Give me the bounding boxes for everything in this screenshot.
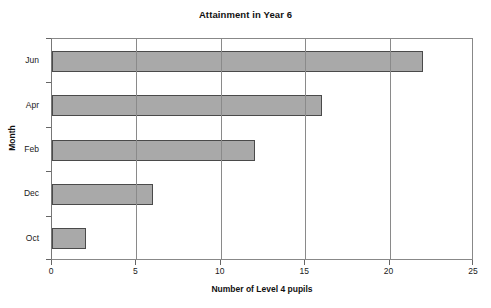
bar-rect-dec (52, 184, 153, 205)
bar-rect-feb (52, 140, 255, 161)
y-tick-label-dec: Dec (24, 188, 39, 198)
y-axis-tick-labels: OctDecFebAprJun (0, 38, 43, 260)
plot-area (51, 38, 473, 260)
y-tick-label-jun: Jun (25, 55, 39, 65)
bar-rect-oct (52, 228, 86, 249)
x-tick-0 (51, 260, 52, 265)
bar-chart-figure: Attainment in Year 6 Month OctDecFebAprJ… (0, 0, 491, 308)
x-tick-label-15: 15 (299, 266, 308, 276)
x-tick-25 (472, 260, 473, 265)
x-tick-label-25: 25 (468, 266, 477, 276)
x-tick-label-5: 5 (133, 266, 138, 276)
x-tick-5 (135, 260, 136, 265)
x-tick-10 (220, 260, 221, 265)
x-tick-20 (389, 260, 390, 265)
bar-rect-apr (52, 95, 322, 116)
x-axis-title: Number of Level 4 pupils (51, 284, 473, 294)
x-tick-15 (304, 260, 305, 265)
x-tick-label-20: 20 (384, 266, 393, 276)
x-axis-tick-labels: 0510152025 (51, 266, 473, 280)
y-tick-label-oct: Oct (26, 233, 39, 243)
x-tick-label-0: 0 (49, 266, 54, 276)
bar-rect-jun (52, 51, 423, 72)
bars-layer (52, 39, 472, 259)
x-tick-label-10: 10 (215, 266, 224, 276)
y-tick-label-feb: Feb (24, 144, 39, 154)
y-tick-label-apr: Apr (26, 100, 39, 110)
gridline-25 (473, 39, 474, 259)
chart-title: Attainment in Year 6 (0, 9, 491, 20)
